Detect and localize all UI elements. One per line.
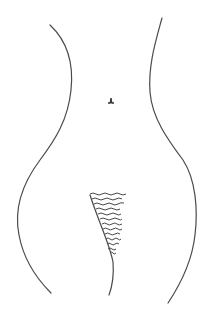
left-body-contour — [18, 25, 72, 293]
torso-drawing — [0, 0, 209, 322]
navel-mark — [108, 98, 114, 103]
inner-contour — [90, 195, 113, 295]
right-body-contour — [150, 18, 197, 303]
